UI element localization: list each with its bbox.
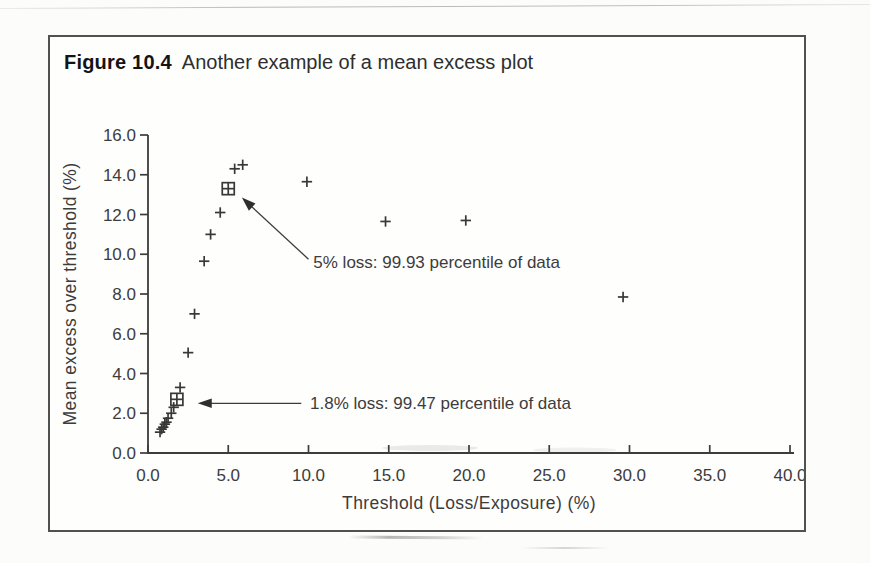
y-tick-label: 8.0 xyxy=(112,285,136,304)
x-axis-title: Threshold (Loss/Exposure) (%) xyxy=(342,493,596,513)
y-tick-label: 6.0 xyxy=(112,325,136,344)
annotation-text: 5% loss: 99.93 percentile of data xyxy=(313,253,560,272)
annotation-arrow-line xyxy=(248,204,308,260)
y-tick-label: 14.0 xyxy=(103,166,136,185)
y-tick-label: 16.0 xyxy=(103,126,136,145)
y-tick-label: 0.0 xyxy=(112,444,136,463)
scan-smudge xyxy=(533,448,617,453)
scan-smudge xyxy=(520,547,610,549)
x-tick-label: 15.0 xyxy=(372,466,405,485)
x-tick-label: 20.0 xyxy=(452,466,485,485)
x-tick-label: 5.0 xyxy=(216,466,240,485)
scan-artifact-line xyxy=(0,4,870,9)
x-tick-label: 35.0 xyxy=(693,466,726,485)
annotation-arrowhead xyxy=(198,399,212,409)
y-tick-label: 10.0 xyxy=(103,245,136,264)
x-tick-label: 0.0 xyxy=(136,466,160,485)
y-axis-title: Mean excess over threshold (%) xyxy=(60,163,80,426)
x-tick-label: 40.0 xyxy=(773,466,804,485)
figure-box: Figure 10.4Another example of a mean exc… xyxy=(48,35,806,532)
annotation-text: 1.8% loss: 99.47 percentile of data xyxy=(310,394,571,413)
mean-excess-plot: 0.02.04.06.08.010.012.014.016.00.05.010.… xyxy=(50,37,804,530)
y-tick-label: 2.0 xyxy=(112,404,136,423)
x-tick-label: 10.0 xyxy=(292,466,325,485)
scan-smudge xyxy=(348,536,483,540)
x-tick-label: 30.0 xyxy=(613,466,646,485)
x-tick-label: 25.0 xyxy=(533,466,566,485)
y-tick-label: 12.0 xyxy=(103,206,136,225)
scan-smudge xyxy=(382,445,478,451)
y-tick-label: 4.0 xyxy=(112,365,136,384)
